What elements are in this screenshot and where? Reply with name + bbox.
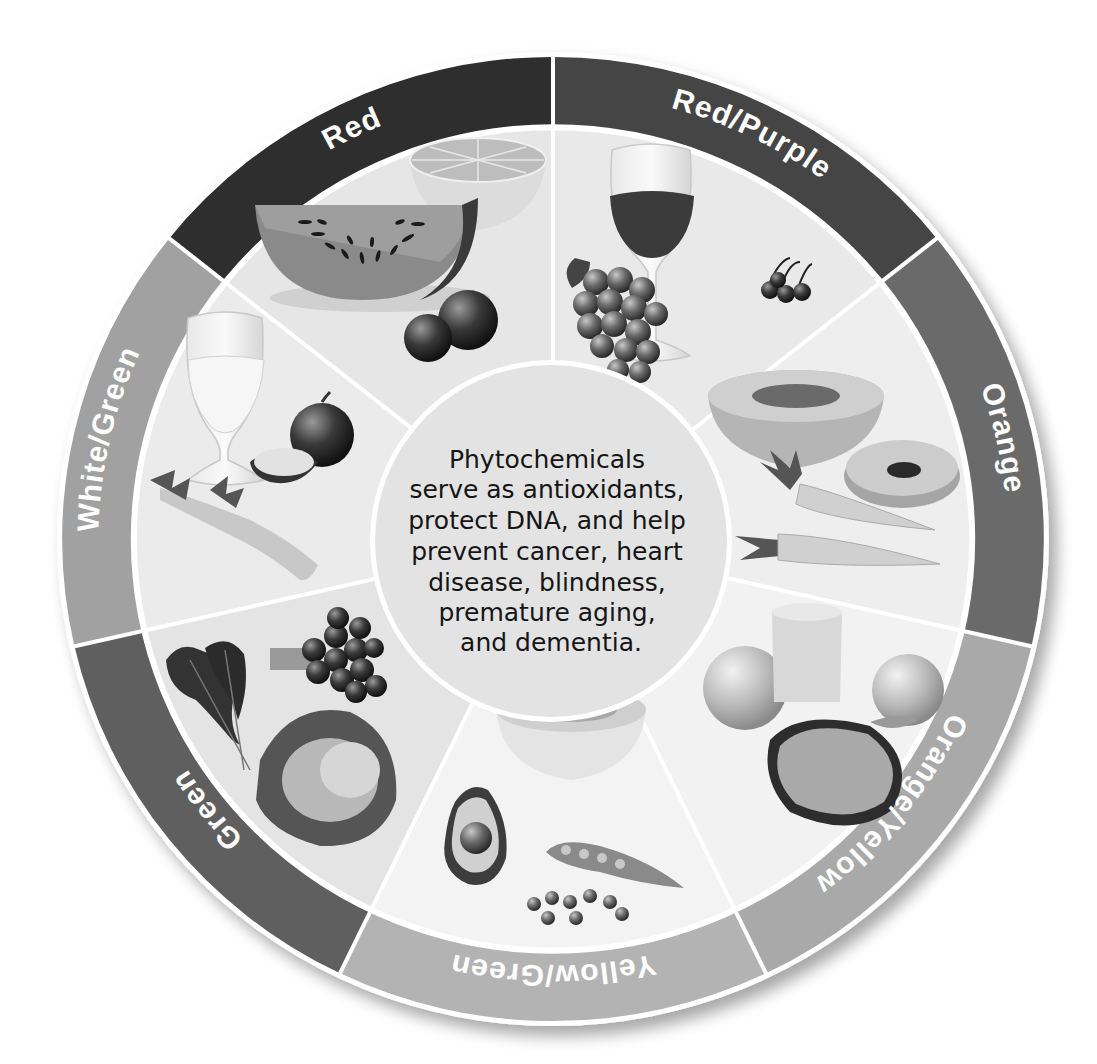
center-text-line: Phytochemicals [449, 445, 645, 474]
center-text-line: protect DNA, and help [408, 506, 686, 535]
papaya-half-icon [844, 440, 960, 508]
center-circle: Phytochemicals serve as antioxidants, pr… [370, 360, 732, 722]
center-text: Phytochemicals serve as antioxidants, pr… [408, 445, 694, 657]
phytochemical-color-wheel: Phytochemicals serve as antioxidants, pr… [0, 0, 1097, 1064]
center-text-line: prevent cancer, heart [411, 537, 683, 566]
center-text-line: and dementia. [460, 628, 642, 657]
center-text-line: serve as antioxidants, [409, 475, 684, 504]
juice-glass-icon [772, 603, 842, 702]
center-text-line: disease, blindness, [428, 568, 666, 597]
center-text-line: premature aging, [438, 598, 655, 627]
